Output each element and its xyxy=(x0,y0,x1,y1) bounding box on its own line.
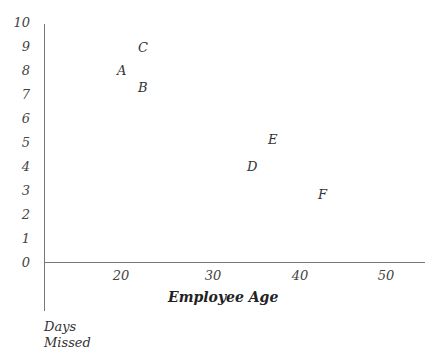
y-tick-8: 8 xyxy=(6,63,30,78)
point-c: C xyxy=(138,40,148,55)
y-tick-0: 0 xyxy=(6,255,30,270)
y-axis-title-line-1: Days xyxy=(44,319,91,335)
point-e: E xyxy=(268,132,278,147)
point-d: D xyxy=(247,159,257,174)
y-tick-6: 6 xyxy=(6,111,30,126)
y-tick-4: 4 xyxy=(6,159,30,174)
x-tick-50: 50 xyxy=(371,268,401,283)
y-axis-line xyxy=(44,24,45,311)
y-tick-1: 1 xyxy=(6,231,30,246)
y-axis-title: Days Missed xyxy=(44,319,91,348)
x-axis-line xyxy=(44,262,425,263)
x-axis-title: Employee Age xyxy=(168,289,278,305)
x-tick-40: 40 xyxy=(285,268,315,283)
y-tick-10: 10 xyxy=(6,15,30,30)
point-a: A xyxy=(117,63,126,78)
point-f: F xyxy=(318,187,327,202)
y-tick-9: 9 xyxy=(6,39,30,54)
x-tick-20: 20 xyxy=(106,268,136,283)
scatter-chart: 10 9 8 7 6 5 4 3 2 1 0 20 30 40 50 A B C… xyxy=(0,0,447,348)
y-tick-5: 5 xyxy=(6,135,30,150)
y-tick-3: 3 xyxy=(6,183,30,198)
y-tick-2: 2 xyxy=(6,207,30,222)
x-tick-30: 30 xyxy=(198,268,228,283)
y-tick-7: 7 xyxy=(6,87,30,102)
point-b: B xyxy=(138,80,148,95)
y-axis-title-line-2: Missed xyxy=(44,335,91,348)
